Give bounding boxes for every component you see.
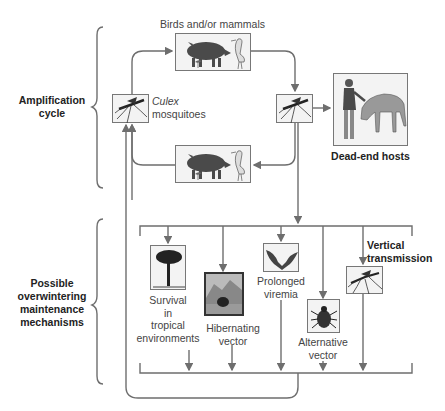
label-line: overwintering bbox=[14, 290, 90, 303]
label-line: viremia bbox=[250, 288, 312, 301]
label-line: Survival bbox=[135, 294, 201, 307]
mosquito-icon bbox=[113, 95, 150, 124]
dead-end-hosts-box bbox=[333, 73, 408, 146]
dead-end-hosts-label: Dead-end hosts bbox=[323, 150, 418, 163]
pig-heron-icon bbox=[176, 146, 252, 184]
label-line: cycle bbox=[14, 107, 90, 120]
mechanism-viremia-label: Prolonged viremia bbox=[250, 275, 312, 300]
mechanism-hibernating-box bbox=[204, 272, 244, 316]
mosquito-icon bbox=[277, 95, 314, 124]
palm-tree-icon bbox=[151, 246, 187, 291]
culex-label: Culex mosquitoes bbox=[152, 95, 206, 120]
label-line: Prolonged bbox=[250, 275, 312, 288]
right-mosquito-box bbox=[276, 94, 313, 123]
label-line: maintenance bbox=[14, 303, 90, 316]
mosquito-icon bbox=[347, 267, 384, 295]
label-line: mechanisms bbox=[14, 316, 90, 329]
label-line: environments bbox=[135, 332, 201, 345]
overwintering-section-label: Possible overwintering maintenance mecha… bbox=[14, 277, 90, 329]
label-line: Hibernating bbox=[200, 322, 266, 335]
mountain-cave-icon bbox=[206, 274, 242, 314]
mechanism-viremia-box bbox=[263, 243, 299, 272]
label-line: Alternative bbox=[290, 336, 356, 349]
label-line: Possible bbox=[14, 277, 90, 290]
mechanism-alternative-box bbox=[307, 299, 340, 333]
mechanism-tropical-label: Survival in tropical environments bbox=[135, 294, 201, 344]
culex-mosquito-box bbox=[112, 94, 149, 123]
mechanism-tropical-box bbox=[150, 245, 186, 290]
label-line: in bbox=[135, 307, 201, 320]
label-line: Amplification bbox=[14, 94, 90, 107]
culex-italic: Culex bbox=[152, 95, 206, 108]
mosquitoes-text: mosquitoes bbox=[152, 108, 206, 121]
mechanism-vertical-box bbox=[346, 266, 383, 294]
bat-icon bbox=[264, 244, 300, 273]
tick-icon bbox=[308, 300, 341, 334]
host-box-bottom bbox=[175, 145, 251, 183]
label-line: vector bbox=[290, 349, 356, 362]
person-horse-icon bbox=[334, 74, 409, 147]
hosts-label: Birds and/or mammals bbox=[150, 18, 275, 31]
amplification-section-label: Amplification cycle bbox=[14, 94, 90, 120]
label-line: tropical bbox=[135, 319, 201, 332]
host-box-top bbox=[175, 33, 251, 71]
pig-heron-icon bbox=[176, 34, 252, 72]
label-line: Vertical bbox=[367, 239, 432, 252]
mechanism-alternative-label: Alternative vector bbox=[290, 336, 356, 361]
mechanism-hibernating-label: Hibernating vector bbox=[200, 322, 266, 347]
label-line: vector bbox=[200, 335, 266, 348]
label-line: transmission bbox=[367, 252, 432, 265]
mechanism-vertical-label: Vertical transmission bbox=[367, 239, 432, 265]
